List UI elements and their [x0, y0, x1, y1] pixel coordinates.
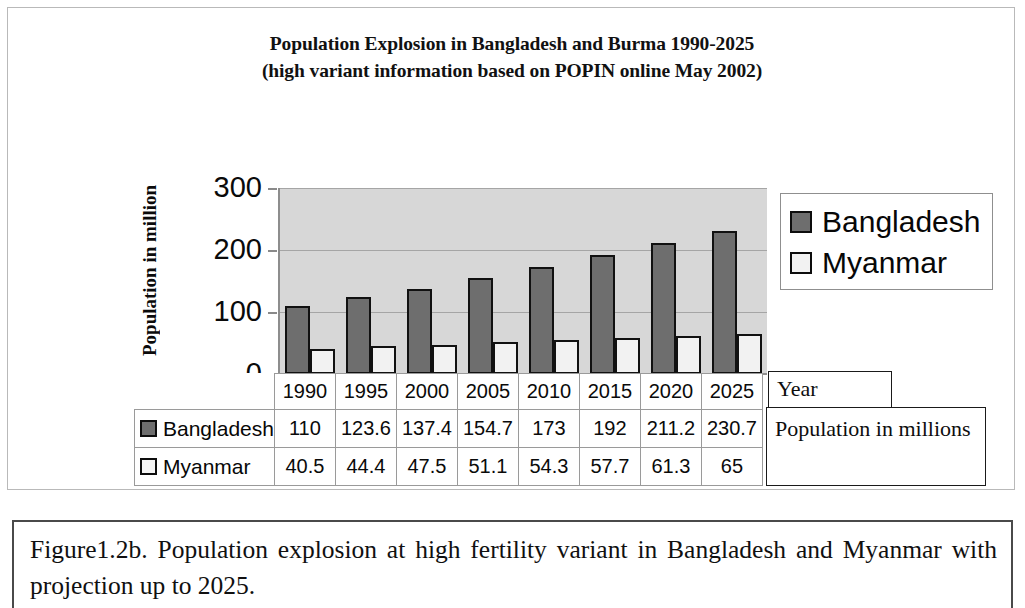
table-row-header-inner: Myanmar	[140, 455, 274, 479]
table-row: Myanmar40.544.447.551.154.357.761.365	[135, 448, 763, 486]
y-tick-mark	[268, 312, 277, 314]
table-value-cell: 110	[274, 410, 335, 448]
bar-bangladesh-2015	[590, 255, 615, 374]
bar-group	[402, 188, 463, 374]
data-table: 19901995200020052010201520202025Banglade…	[134, 373, 763, 486]
bar-myanmar-1990	[310, 349, 335, 374]
chart-title-line-1: Population Explosion in Bangladesh and B…	[8, 30, 1016, 57]
bar-myanmar-2020	[676, 336, 701, 374]
chart-title: Population Explosion in Bangladesh and B…	[8, 30, 1016, 84]
y-tick-mark	[268, 250, 277, 252]
table-swatch-myanmar	[140, 458, 157, 475]
legend-item-myanmar: Myanmar	[790, 242, 992, 283]
y-tick-mark	[268, 188, 277, 190]
table-value-cell: 230.7	[701, 410, 762, 448]
bar-group	[706, 188, 767, 374]
table-year-cell: 1995	[335, 374, 396, 410]
figure-caption-text: Figure1.2b. Population explosion at high…	[30, 532, 997, 604]
callout-population-box: Population in millions	[766, 407, 986, 486]
bar-group	[463, 188, 524, 374]
table-value-cell: 44.4	[335, 448, 396, 486]
table-year-cell: 2020	[640, 374, 701, 410]
bar-group	[280, 188, 341, 374]
table-value-cell: 47.5	[396, 448, 457, 486]
plot-area	[278, 188, 767, 374]
table-value-cell: 40.5	[274, 448, 335, 486]
bar-myanmar-2015	[615, 338, 640, 374]
callout-year-label: Year	[777, 376, 818, 401]
table-row-label: Bangladesh	[163, 417, 274, 441]
bar-myanmar-2010	[554, 340, 579, 374]
table-row-header-myanmar: Myanmar	[135, 448, 275, 486]
chart-legend: BangladeshMyanmar	[780, 193, 993, 290]
table-row: Bangladesh110123.6137.4154.7173192211.22…	[135, 410, 763, 448]
table-row-years: 19901995200020052010201520202025	[135, 374, 763, 410]
y-axis-title: Population in million	[137, 154, 163, 386]
bar-bangladesh-2010	[529, 267, 554, 374]
chart-title-subtitle: (high variant information based on POPIN…	[8, 57, 1016, 84]
bar-myanmar-2005	[493, 342, 518, 374]
legend-swatch-bangladesh	[790, 211, 812, 233]
table-year-cell: 2005	[457, 374, 518, 410]
bar-bangladesh-2025	[712, 231, 737, 374]
bar-group	[584, 188, 645, 374]
table-value-cell: 137.4	[396, 410, 457, 448]
table-year-cell: 2025	[701, 374, 762, 410]
table-value-cell: 173	[518, 410, 579, 448]
table-value-cell: 211.2	[640, 410, 701, 448]
bar-bangladesh-1995	[346, 297, 371, 374]
table-row-label: Myanmar	[163, 455, 251, 479]
bar-bangladesh-2005	[468, 278, 493, 374]
bar-group	[524, 188, 585, 374]
bar-bangladesh-2020	[651, 243, 676, 374]
y-tick-label: 200	[190, 235, 262, 264]
bar-bangladesh-2000	[407, 289, 432, 374]
table-value-cell: 61.3	[640, 448, 701, 486]
table-year-cell: 2010	[518, 374, 579, 410]
table-year-cell: 2000	[396, 374, 457, 410]
bar-myanmar-2025	[737, 334, 762, 374]
bar-group	[341, 188, 402, 374]
table-year-cell: 1990	[274, 374, 335, 410]
table-value-cell: 51.1	[457, 448, 518, 486]
y-tick-label: 300	[190, 173, 262, 202]
table-swatch-bangladesh	[140, 420, 157, 437]
legend-swatch-myanmar	[790, 252, 812, 274]
bar-bangladesh-1990	[285, 306, 310, 374]
legend-item-bangladesh: Bangladesh	[790, 201, 992, 242]
y-tick-label: 100	[190, 297, 262, 326]
table-value-cell: 123.6	[335, 410, 396, 448]
table-year-cell: 2015	[579, 374, 640, 410]
legend-label: Myanmar	[822, 248, 947, 278]
table-value-cell: 192	[579, 410, 640, 448]
bars-layer	[280, 188, 767, 374]
chart-figure-frame: Population Explosion in Bangladesh and B…	[7, 7, 1015, 490]
bar-group	[645, 188, 706, 374]
table-value-cell: 57.7	[579, 448, 640, 486]
bar-myanmar-1995	[371, 346, 396, 374]
callout-population-label: Population in millions	[775, 416, 971, 441]
legend-label: Bangladesh	[822, 207, 980, 237]
bar-myanmar-2000	[432, 345, 457, 374]
figure-caption-box: Figure1.2b. Population explosion at high…	[12, 520, 1013, 608]
table-row-header-inner: Bangladesh	[140, 417, 274, 441]
table-value-cell: 154.7	[457, 410, 518, 448]
table-value-cell: 65	[701, 448, 762, 486]
table-value-cell: 54.3	[518, 448, 579, 486]
table-corner-cell	[135, 374, 275, 410]
callout-year-box: Year	[768, 371, 892, 408]
table-row-header-bangladesh: Bangladesh	[135, 410, 275, 448]
